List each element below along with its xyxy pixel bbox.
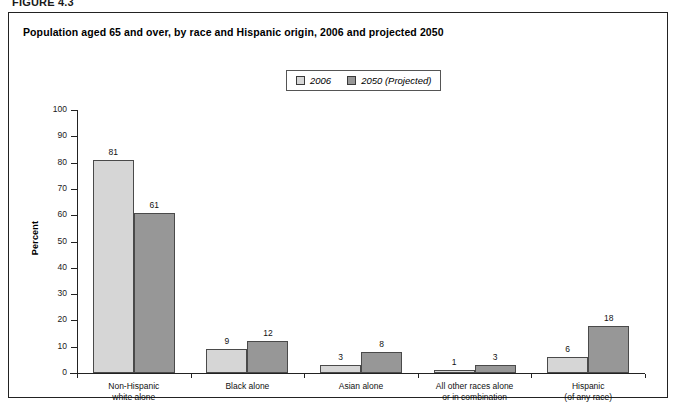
y-axis-tick-label: 100 [43,105,67,114]
bar-value-label: 6 [541,345,594,354]
y-axis-tick [71,189,77,190]
y-axis-tick [71,347,77,348]
y-axis-tick-label: 10 [43,342,67,351]
x-axis-category-label-line: Hispanic [531,381,645,392]
bar-value-label: 3 [469,353,522,362]
y-axis-tick [71,268,77,269]
y-axis-tick-label-wrap: 30 [35,289,67,299]
figure-number-label: FIGURE 4.3 [12,0,74,8]
y-axis-tick-label: 50 [43,237,67,246]
y-axis-tick [71,320,77,321]
y-axis-line [77,110,78,374]
y-axis-tick-label-wrap: 40 [35,263,67,273]
bar [434,370,475,373]
bar-value-label: 8 [355,340,408,349]
bar [134,213,175,373]
bar [93,160,134,373]
y-axis-tick-label-wrap: 90 [35,131,67,141]
bar [547,357,588,373]
bar-value-label: 61 [128,201,181,210]
y-axis-tick-label: 70 [43,184,67,193]
y-axis-tick-label-wrap: 60 [35,210,67,220]
x-axis-tick [531,374,532,378]
bar-value-label: 3 [314,353,367,362]
bar-value-label: 9 [200,337,253,346]
bar [247,341,288,373]
x-axis-category-label: All other races aloneor in combination [418,381,532,403]
x-axis-category-label: Black alone [191,381,305,392]
x-axis-category-label: Non-Hispanicwhite alone [77,381,191,403]
y-axis-tick-label-wrap: 10 [35,342,67,352]
x-axis-tick [304,374,305,378]
x-axis-category-label-line: Asian alone [304,381,418,392]
y-axis-tick-label: 60 [43,210,67,219]
y-axis-tick-label-wrap: 0 [35,368,67,378]
y-axis-tick-label: 40 [43,263,67,272]
y-axis-tick-label-wrap: 20 [35,315,67,325]
y-axis-tick-label: 30 [43,289,67,298]
x-axis-category-label: Asian alone [304,381,418,392]
plot-area: Percent 0102030405060708090100 816191238… [9,13,669,399]
bar [206,349,247,373]
y-axis-tick-label: 90 [43,131,67,140]
x-axis-line [70,373,645,374]
y-axis-tick-label-wrap: 70 [35,184,67,194]
x-axis-tick [77,374,78,378]
x-axis-category-label-line: Non-Hispanic [77,381,191,392]
bar [588,326,629,373]
bar [320,365,361,373]
bar-value-label: 18 [582,314,635,323]
y-axis-tick [71,136,77,137]
figure-frame: Population aged 65 and over, by race and… [8,12,668,398]
x-axis-category-label: Hispanic(of any race) [531,381,645,403]
y-axis-tick [71,110,77,111]
y-axis-tick-label-wrap: 80 [35,158,67,168]
x-axis-category-label-line: (of any race) [531,392,645,403]
y-axis-tick-label: 80 [43,158,67,167]
bar-value-label: 12 [241,329,294,338]
y-axis-tick-label: 0 [43,368,67,377]
y-axis-tick [71,242,77,243]
y-axis-tick [71,215,77,216]
x-axis-category-label-line: All other races alone [418,381,532,392]
bar-value-label: 81 [87,148,140,157]
x-axis-category-label-line: white alone [77,392,191,403]
x-axis-category-label-line: Black alone [191,381,305,392]
bar [361,352,402,373]
y-axis-tick [71,294,77,295]
y-axis-tick [71,163,77,164]
x-axis-category-label-line: or in combination [418,392,532,403]
y-axis-tick-label: 20 [43,315,67,324]
x-axis-tick [191,374,192,378]
y-axis-tick-label-wrap: 100 [35,105,67,115]
x-axis-tick [418,374,419,378]
y-axis-tick-label-wrap: 50 [35,237,67,247]
bar [475,365,516,373]
x-axis-tick [645,374,646,378]
